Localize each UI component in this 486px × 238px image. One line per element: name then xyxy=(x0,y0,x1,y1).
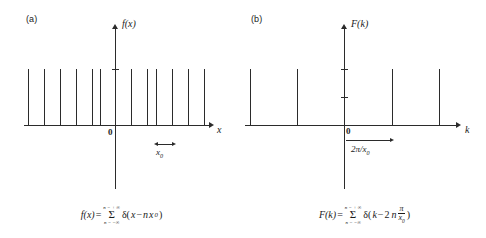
y-axis-arrowhead-a xyxy=(112,24,118,29)
equation-b-sum-symbol: Σ xyxy=(350,210,356,220)
x-axis-a xyxy=(24,125,211,126)
panel-a-label: (a) xyxy=(26,14,37,24)
equation-b-minus: − xyxy=(378,209,384,220)
equation-b-delta-open: δ( xyxy=(363,209,371,220)
equation-a: f(x) = n = + ∞ Σ n = −∞ δ( x − n x0 ) xyxy=(0,205,243,225)
x-axis-arrowhead-a xyxy=(209,122,214,128)
equation-b-lhs: F(k) xyxy=(319,209,336,220)
spike xyxy=(204,69,205,125)
period-arrow-a xyxy=(158,144,172,145)
equation-b-sum-lower: n = −∞ xyxy=(345,220,360,225)
equation-a-sum-lower: n = −∞ xyxy=(104,220,119,225)
equation-b-index: n xyxy=(391,209,396,220)
equation-a-spacing: x xyxy=(149,209,153,220)
equation-a-delta-close: ) xyxy=(159,209,162,220)
period-label-b: 2π/x0 xyxy=(351,144,370,156)
equation-b-fraction-denominator: x0 xyxy=(398,214,404,224)
period-label-a: x0 xyxy=(156,147,163,159)
equation-b: F(k) = n = + ∞ Σ n = −∞ δ( k − 2 n π x0 … xyxy=(243,205,486,225)
period-arrowhead-left-a xyxy=(154,142,158,146)
period-arrowhead-right-a xyxy=(172,142,176,146)
y-axis-tick-upper-b xyxy=(341,69,348,70)
equation-b-fraction-den-sub: 0 xyxy=(402,218,405,224)
spike xyxy=(92,69,93,125)
spike xyxy=(439,69,440,125)
equation-b-sum: n = + ∞ Σ n = −∞ xyxy=(345,205,362,225)
y-axis-b xyxy=(344,29,345,189)
panel-a: (a) f(x) x 0 x0 f(x) xyxy=(0,0,243,238)
equation-b-variable: k xyxy=(372,209,376,220)
x-axis-label-a: x xyxy=(217,124,221,135)
origin-label-b: 0 xyxy=(346,126,351,136)
spike xyxy=(131,69,132,125)
equation-a-index: n xyxy=(143,209,148,220)
figure-dirac-comb: (a) f(x) x 0 x0 f(x) xyxy=(0,0,486,238)
equation-b-factor: 2 xyxy=(384,209,389,220)
equation-a-sum: n = + ∞ Σ n = −∞ xyxy=(103,205,120,225)
panel-b: (b) F(k) k 0 2π/x0 F(k) = n = + ∞ Σ xyxy=(243,0,486,238)
x-axis-b xyxy=(245,125,458,126)
spike xyxy=(147,69,148,125)
x-axis-arrowhead-b xyxy=(456,122,461,128)
equation-a-equals: = xyxy=(96,209,102,220)
equation-a-minus: − xyxy=(136,209,142,220)
equation-a-spacing-sub: 0 xyxy=(154,211,157,218)
period-label-b-sub: 0 xyxy=(367,150,370,156)
spike xyxy=(44,69,45,125)
y-axis-a xyxy=(115,29,116,189)
equation-a-lhs: f(x) xyxy=(81,209,95,220)
spike xyxy=(60,69,61,125)
spike xyxy=(297,69,298,125)
y-axis-label-a: f(x) xyxy=(122,18,136,29)
y-axis-arrowhead-b xyxy=(341,24,347,29)
spike xyxy=(188,69,189,125)
spike xyxy=(172,69,173,125)
period-label-a-sub: 0 xyxy=(160,153,163,159)
y-axis-tick-lower-b xyxy=(341,97,348,98)
equation-a-sum-symbol: Σ xyxy=(108,210,114,220)
equation-b-equals: = xyxy=(337,209,343,220)
spike xyxy=(250,69,251,125)
spike xyxy=(28,69,29,125)
equation-b-delta-close: ) xyxy=(407,209,410,220)
equation-b-fraction: π x0 xyxy=(398,205,404,224)
y-axis-tick-a xyxy=(112,69,119,70)
origin-label-a: 0 xyxy=(108,127,113,137)
period-label-b-text: 2π/x xyxy=(351,144,367,154)
equation-a-delta-open: δ( xyxy=(122,209,130,220)
period-arrow-b xyxy=(346,140,391,141)
panel-b-label: (b) xyxy=(251,14,262,24)
equation-b-fraction-numerator: π xyxy=(400,205,404,213)
period-arrowhead-right-b xyxy=(390,138,394,142)
spike xyxy=(100,69,101,125)
equation-a-variable: x xyxy=(131,209,135,220)
y-axis-label-b: F(k) xyxy=(351,18,368,29)
x-axis-label-b: k xyxy=(465,124,469,135)
spike xyxy=(392,69,393,125)
spike xyxy=(156,69,157,125)
spike xyxy=(76,69,77,125)
